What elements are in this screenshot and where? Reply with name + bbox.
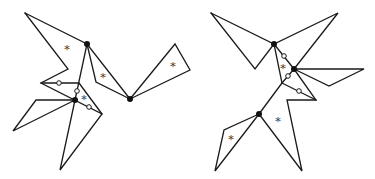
left-figure: **** (13, 13, 190, 170)
right-figure: *** (211, 13, 364, 171)
asterisk-marker: * (64, 43, 70, 56)
asterisk-marker: * (81, 93, 87, 106)
asterisk-marker: * (170, 60, 176, 73)
open-vertex (87, 105, 92, 110)
filled-vertex (84, 41, 90, 47)
filled-vertex (291, 66, 297, 72)
open-vertex (57, 81, 62, 86)
open-vertex (286, 74, 291, 79)
open-vertex (75, 89, 80, 94)
filled-vertex (256, 111, 262, 117)
asterisk-marker: * (228, 133, 234, 146)
edge-path (13, 100, 75, 131)
asterisk-marker: * (100, 71, 106, 84)
open-vertex (282, 54, 287, 59)
diagram-canvas: **** *** (0, 0, 375, 179)
filled-vertex (271, 41, 277, 47)
filled-vertex (127, 96, 133, 102)
edge-path (211, 13, 338, 69)
edge-path (215, 44, 282, 171)
edge-path (25, 13, 102, 170)
edge-path (211, 13, 274, 69)
asterisk-marker: * (275, 115, 281, 128)
open-vertex (297, 89, 302, 94)
filled-vertex (72, 97, 78, 103)
edge-path (259, 44, 316, 171)
asterisk-marker: * (280, 62, 286, 75)
edge-path (130, 44, 190, 99)
